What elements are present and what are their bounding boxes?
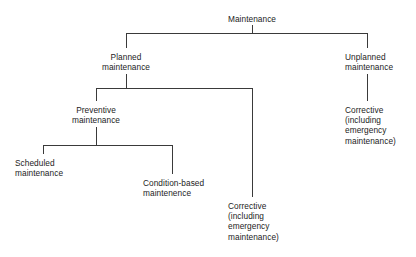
node-maintenance: Maintenance — [228, 14, 276, 24]
node-corrective-planned: Corrective (including emergency maintena… — [228, 201, 279, 242]
node-condition-based-maintenance: Condition-based maintenence — [143, 178, 204, 198]
node-corrective-unplanned: Corrective (including emergency maintena… — [345, 105, 396, 146]
maintenance-tree-diagram: Maintenance Planned maintenance Unplanne… — [0, 0, 416, 257]
node-scheduled-maintenance: Scheduled maintenance — [15, 158, 63, 178]
node-preventive-maintenance: Preventive maintenance — [72, 105, 120, 125]
node-unplanned-maintenance: Unplanned maintenance — [345, 52, 393, 72]
node-planned-maintenance: Planned maintenance — [102, 52, 150, 72]
